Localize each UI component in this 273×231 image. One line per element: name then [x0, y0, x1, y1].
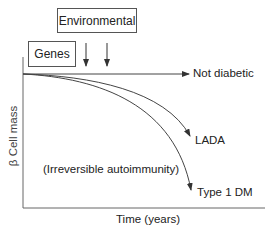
irreversible-autoimmunity-label: (Irreversible autoimmunity) [43, 163, 179, 175]
lada-curve [23, 74, 190, 136]
not-diabetic-label: Not diabetic [193, 67, 254, 79]
lada-label: LADA [195, 134, 225, 146]
x-axis-label: Time (years) [116, 213, 180, 225]
y-axis-label: β Cell mass [7, 101, 19, 171]
type1dm-label: Type 1 DM [197, 186, 253, 198]
